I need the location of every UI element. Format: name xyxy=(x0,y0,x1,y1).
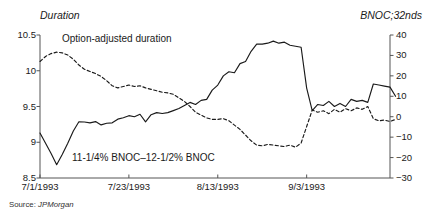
annotation-option-adjusted-duration: Option-adjusted duration xyxy=(62,33,172,44)
right-axis-ticks xyxy=(390,35,394,178)
left-axis-ticks xyxy=(37,35,41,178)
left-axis-tick-label: 9.5 xyxy=(2,102,36,112)
right-axis-tick-label: 0 xyxy=(396,112,432,122)
series-line-option-adjusted-duration xyxy=(40,52,396,147)
right-axis-tick-label: 10 xyxy=(396,91,432,101)
right-axis-tick-label: 30 xyxy=(396,50,432,60)
left-axis-tick-label: 9 xyxy=(2,137,36,147)
x-axis-tick-label: 8/13/1993 xyxy=(178,182,258,192)
chart-figure: Duration BNOC;32nds 10.5109.598.5 403020… xyxy=(0,0,434,221)
right-axis-tick-label: 20 xyxy=(396,71,432,81)
series-line-bnoc-spread xyxy=(40,41,396,165)
x-axis-ticks xyxy=(40,175,307,179)
x-axis-tick-label: 9/3/1993 xyxy=(267,182,347,192)
x-axis-tick-label: 7/1/1993 xyxy=(0,182,80,192)
right-axis-tick-label: −20 xyxy=(396,153,432,163)
source-name: JPMorgan xyxy=(38,200,74,209)
right-axis-tick-label: −30 xyxy=(396,173,432,183)
left-axis-tick-label: 10.5 xyxy=(2,30,36,40)
left-axis-tick-label: 10 xyxy=(2,66,36,76)
right-axis-tick-label: −10 xyxy=(396,132,432,142)
annotation-bnoc-spread: 11-1/4% BNOC–12-1/2% BNOC xyxy=(72,152,215,163)
right-axis-tick-label: 40 xyxy=(396,30,432,40)
source-note: Source: JPMorgan xyxy=(9,200,74,209)
source-prefix: Source: xyxy=(9,200,38,209)
x-axis-tick-label: 7/23/1993 xyxy=(89,182,169,192)
